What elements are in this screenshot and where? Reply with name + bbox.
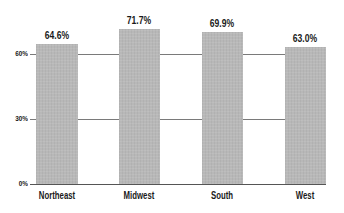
value-label-west: 63.0%: [282, 32, 329, 44]
x-tick-label-midwest: Midwest: [112, 190, 167, 201]
x-tick-label-northeast: Northeast: [30, 190, 85, 201]
value-label-south: 69.9%: [199, 17, 246, 29]
bar-northeast: [36, 44, 78, 184]
value-label-midwest: 71.7%: [116, 14, 163, 26]
y-tick-label: 30%: [6, 114, 28, 123]
x-axis-baseline: [30, 184, 326, 185]
bar-south: [202, 32, 243, 184]
y-tick-label: 0%: [6, 179, 28, 188]
bar-midwest: [119, 29, 160, 184]
x-tick-label-south: South: [195, 190, 250, 201]
y-tick-label: 60%: [6, 49, 28, 58]
bar-west: [285, 47, 326, 184]
bar-chart: 60% 30% 0% 64.6% 71.7% 69.9% 63.0% North…: [0, 0, 344, 213]
x-tick-label-west: West: [278, 190, 333, 201]
value-label-northeast: 64.6%: [34, 29, 81, 41]
